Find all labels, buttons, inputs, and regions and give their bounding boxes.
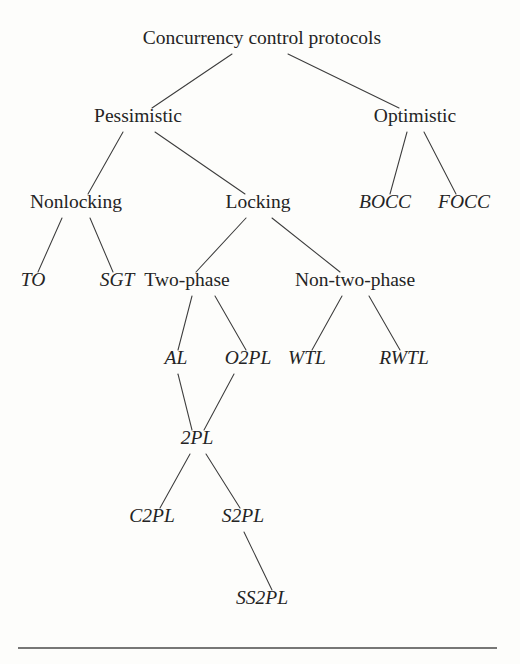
tree-node-root: Concurrency control protocols	[143, 27, 381, 48]
tree-edge-o2pl-to-twopl	[204, 374, 234, 430]
taxonomy-figure: Concurrency control protocolsPessimistic…	[0, 0, 520, 664]
tree-edge-root-to-pessimistic	[152, 54, 232, 108]
tree-edge-locking-to-nontwophase	[272, 218, 340, 272]
tree-diagram: Concurrency control protocolsPessimistic…	[0, 0, 520, 664]
tree-edge-root-to-optimistic	[288, 54, 399, 108]
tree-node-wtl: WTL	[288, 347, 326, 368]
tree-edge-nonlocking-to-to	[38, 218, 62, 272]
tree-edge-twopl-to-c2pl	[160, 454, 190, 508]
tree-edge-nonlocking-to-sgt	[90, 218, 113, 272]
tree-edge-twophase-to-o2pl	[215, 296, 246, 350]
tree-node-ss2pl: SS2PL	[236, 587, 288, 608]
tree-edge-optimistic-to-bocc	[390, 132, 407, 194]
tree-node-al: AL	[163, 347, 188, 368]
tree-edge-pessimistic-to-locking	[155, 132, 245, 194]
tree-edge-locking-to-twophase	[196, 218, 246, 272]
tree-node-rwtl: RWTL	[378, 347, 429, 368]
tree-node-locking: Locking	[226, 191, 291, 212]
tree-edge-optimistic-to-focc	[424, 132, 456, 194]
tree-node-nonlocking: Nonlocking	[30, 191, 122, 212]
tree-node-twophase: Two-phase	[144, 269, 229, 290]
tree-node-pessimistic: Pessimistic	[94, 105, 182, 126]
tree-node-to: TO	[21, 269, 46, 290]
tree-node-bocc: BOCC	[359, 191, 412, 212]
tree-edge-s2pl-to-ss2pl	[244, 532, 272, 590]
tree-node-s2pl: S2PL	[222, 505, 264, 526]
tree-node-focc: FOCC	[437, 191, 491, 212]
tree-edge-nontwophase-to-wtl	[312, 296, 342, 350]
tree-node-c2pl: C2PL	[129, 505, 175, 526]
tree-edge-nontwophase-to-rwtl	[369, 296, 400, 350]
tree-node-twopl: 2PL	[181, 427, 214, 448]
tree-node-o2pl: O2PL	[225, 347, 272, 368]
tree-edge-al-to-twopl	[178, 374, 192, 430]
tree-edge-twopl-to-s2pl	[206, 454, 240, 508]
tree-node-optimistic: Optimistic	[374, 105, 457, 126]
tree-edge-twophase-to-al	[178, 296, 192, 350]
node-group: Concurrency control protocolsPessimistic…	[21, 27, 491, 608]
tree-edge-pessimistic-to-nonlocking	[88, 132, 123, 194]
tree-node-nontwophase: Non-two-phase	[295, 269, 415, 290]
tree-node-sgt: SGT	[100, 269, 136, 290]
